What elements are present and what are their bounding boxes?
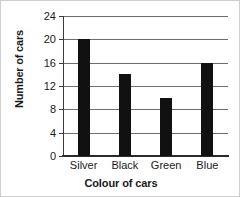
y-axis-tick	[59, 156, 64, 157]
y-axis-tick-label: 20	[44, 33, 56, 45]
x-axis-tick-labels: SilverBlackGreenBlue	[63, 159, 228, 175]
plot-area: 04812162024	[63, 16, 228, 156]
x-axis-tick-label: Blue	[196, 159, 218, 171]
y-axis-tick-label: 4	[50, 127, 56, 139]
y-axis-tick-label: 12	[44, 80, 56, 92]
y-axis-tick	[59, 39, 64, 40]
bar	[160, 98, 172, 156]
y-axis-tick-label: 8	[50, 103, 56, 115]
bar	[201, 63, 213, 156]
gridline	[63, 16, 228, 17]
y-axis-tick	[59, 16, 64, 17]
y-axis-title: Number of cars	[13, 9, 25, 129]
y-axis-tick	[59, 133, 64, 134]
x-axis-title: Colour of cars	[1, 177, 240, 189]
x-axis-tick-label: Silver	[70, 159, 98, 171]
x-axis-tick-label: Black	[111, 159, 138, 171]
x-axis-tick-label: Green	[151, 159, 182, 171]
y-axis-tick	[59, 63, 64, 64]
bar	[78, 39, 90, 156]
y-axis-tick	[59, 86, 64, 87]
y-axis-tick-label: 24	[44, 10, 56, 22]
y-axis-tick-label: 16	[44, 57, 56, 69]
y-axis-tick-label: 0	[50, 150, 56, 162]
bar-chart-image: Number of cars 04812162024 SilverBlackGr…	[0, 0, 240, 197]
bar	[119, 74, 131, 156]
y-axis-tick	[59, 109, 64, 110]
